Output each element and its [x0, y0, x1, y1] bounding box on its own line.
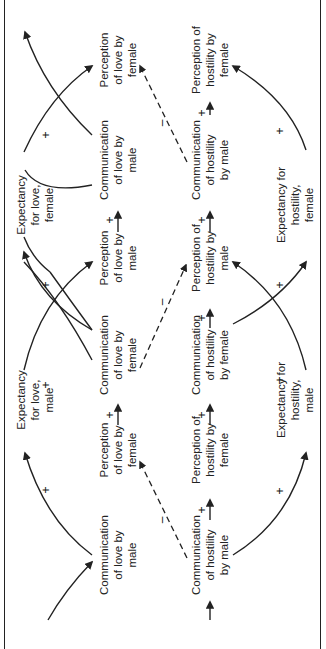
node-comm-love-female: Communication of love by female: [94, 300, 142, 410]
node-comm-host-male-1: Communication of hostility by male: [186, 105, 234, 215]
node-exp-love-male: Expectancy for love, male: [11, 345, 59, 455]
plus-sign: +: [104, 410, 116, 420]
plus-sign: +: [274, 375, 286, 385]
node-comm-love-male-2: Communication of love by male: [94, 500, 142, 610]
plus-sign: +: [196, 410, 208, 420]
node-perc-love-female-2: Perception of love by female: [94, 395, 142, 505]
arc-arrow: [233, 66, 306, 150]
minus-sign: –: [156, 515, 168, 525]
arc-arrow: [25, 32, 92, 135]
minus-sign: –: [156, 118, 168, 128]
node-perc-host-male: Perception of hostility by male: [186, 203, 234, 313]
plus-sign: +: [40, 380, 52, 390]
arc-arrow: [48, 562, 92, 620]
dashed-arrow: [140, 462, 187, 558]
dashed-arrow: [140, 66, 187, 162]
node-exp-host-female: Expectancy for hostility, female: [271, 150, 319, 260]
arc-arrow: [24, 252, 92, 330]
node-perc-host-female-1: Perception of hostility by female: [186, 5, 234, 115]
plus-sign: +: [196, 505, 208, 515]
node-perc-love-female-1: Perception of love by female: [94, 5, 142, 115]
node-perc-host-female-2: Perception of hostility by female: [186, 395, 234, 505]
arc-arrow: [233, 262, 306, 324]
arc-arrow: [24, 66, 92, 152]
plus-sign: +: [40, 485, 52, 495]
dashed-arrow: [140, 265, 186, 368]
plus-sign: +: [196, 313, 208, 323]
plus-sign: +: [40, 280, 52, 290]
plus-sign: +: [196, 215, 208, 225]
minus-sign: –: [156, 297, 168, 307]
node-exp-love-female: Expectancy for love, female: [11, 150, 59, 260]
plus-sign: +: [274, 280, 286, 290]
node-perc-love-male: Perception of love by male: [94, 203, 142, 313]
arc-arrow: [25, 453, 92, 555]
plus-sign: +: [196, 108, 208, 118]
plus-sign: +: [274, 486, 286, 496]
plus-sign: +: [40, 130, 52, 140]
node-exp-host-male: Expectancy for hostility, male: [271, 345, 319, 455]
node-comm-host-male-2: Communication of hostility by male: [186, 500, 234, 610]
plus-sign: +: [274, 126, 286, 136]
plus-sign: +: [104, 215, 116, 225]
arc-arrow: [233, 453, 306, 555]
node-comm-host-female: Communication of hostility by female: [186, 300, 234, 410]
node-comm-love-male-1: Communication of love by male: [94, 105, 142, 215]
diagram-arrows: [0, 0, 326, 649]
